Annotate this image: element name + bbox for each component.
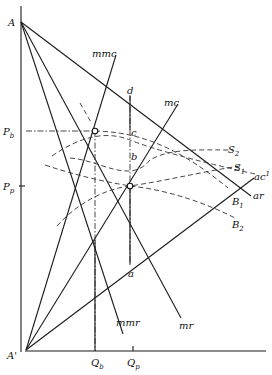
label-Pb: Pb (2, 126, 15, 140)
label-mmc: mmc (92, 48, 117, 59)
b1-curve (52, 136, 255, 174)
label-ar: ar (253, 190, 265, 201)
s2-curve (70, 150, 233, 171)
arrow-dash (80, 103, 92, 124)
label-Qp: Qp (127, 357, 140, 371)
label-d: d (127, 85, 133, 96)
label-Pp: Pp (2, 181, 15, 195)
label-A-prime: A' (6, 350, 17, 361)
b2-curve (45, 165, 235, 218)
mr-line (21, 22, 181, 318)
label-a: a (128, 268, 134, 279)
label-c: c (131, 127, 137, 138)
ac-line (26, 178, 254, 350)
label-mmr: mmr (116, 317, 141, 328)
b1-curve-b (95, 131, 228, 188)
label-b: b (131, 151, 137, 162)
bilateral-point (92, 128, 98, 134)
label-B1: B1 (231, 196, 244, 210)
competitive-point (127, 183, 133, 189)
label-mr: mr (179, 320, 194, 331)
label-S1: S1 (234, 162, 245, 176)
bilateral-monopoly-diagram: A A' d c b a Pb Pp Qb Qp mmc mc mr mmr a… (0, 0, 272, 375)
label-mc: mc (164, 97, 179, 108)
mmr-line (21, 22, 123, 334)
mc-line (26, 104, 178, 350)
label-S2: S2 (228, 144, 240, 158)
mmc-line (26, 55, 116, 350)
label-ac: ac1 (254, 170, 270, 182)
label-A: A (7, 17, 15, 28)
label-Qb: Qb (91, 357, 104, 371)
label-B2: B2 (231, 219, 244, 233)
